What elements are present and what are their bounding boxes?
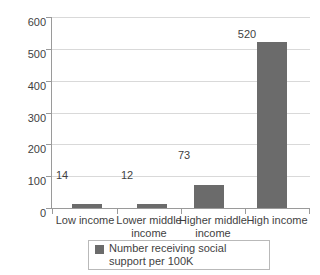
y-tick-label: 300 [2, 113, 46, 124]
legend-label-line2: per 100K [149, 255, 194, 267]
plot-area [52, 17, 310, 208]
x-category-label-high-income: High income [232, 214, 320, 227]
bar-low-income[interactable] [72, 204, 102, 208]
y-tick-label: 500 [2, 49, 46, 60]
bar-value-low-income: 14 [47, 170, 77, 181]
bar-high-income[interactable] [257, 42, 287, 208]
legend-label: Number receiving social support per 100K [109, 242, 263, 268]
bar-value-higher-middle-income: 73 [169, 150, 199, 161]
bar-chart: 600 500 400 300 200 100 0 [0, 0, 320, 275]
y-tick-label: 600 [2, 17, 46, 28]
bar-higher-middle-income[interactable] [194, 185, 224, 208]
bar-value-lower-middle-income: 12 [112, 170, 142, 181]
chart-legend: Number receiving social support per 100K [88, 240, 270, 270]
y-tick-label: 200 [2, 144, 46, 155]
legend-swatch-icon [95, 245, 104, 254]
y-tick-label: 400 [2, 81, 46, 92]
y-tick-label: 100 [2, 176, 46, 187]
bar-lower-middle-income[interactable] [137, 204, 167, 208]
gridline [52, 17, 310, 18]
bar-value-high-income: 520 [232, 29, 262, 40]
